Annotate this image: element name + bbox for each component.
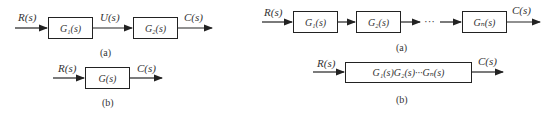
caption-a: (a) xyxy=(396,43,407,53)
input-label: R(s) xyxy=(264,7,282,18)
output-label: C(s) xyxy=(184,12,203,23)
caption-a: (a) xyxy=(100,48,111,58)
block-g: G(s) xyxy=(85,67,130,89)
caption-b: (b) xyxy=(396,95,408,105)
block-label: G₁(s) xyxy=(305,17,326,28)
block-label: G₂(s) xyxy=(145,23,166,34)
output-label: C(s) xyxy=(137,63,156,74)
block-label: Gₙ(s) xyxy=(474,17,496,28)
output-label: C(s) xyxy=(478,56,497,67)
block-label: G₁(s) xyxy=(60,23,81,34)
input-label: R(s) xyxy=(18,12,36,23)
input-label: R(s) xyxy=(317,58,335,69)
block-g2: G₂(s) xyxy=(133,17,178,39)
block-g1: G₁(s) xyxy=(293,11,338,33)
output-label: C(s) xyxy=(512,5,531,16)
block-label: G(s) xyxy=(99,73,117,84)
block-g1: G₁(s) xyxy=(48,17,93,39)
block-g2: G₂(s) xyxy=(356,11,401,33)
caption-b: (b) xyxy=(102,98,114,108)
block-label: G₁(s)G₂(s)···Gₙ(s) xyxy=(373,67,445,78)
ellipsis: ··· xyxy=(424,16,435,27)
block-gn: Gₙ(s) xyxy=(462,11,507,33)
intermediate-label: U(s) xyxy=(100,12,120,23)
input-label: R(s) xyxy=(58,63,76,74)
block-label: G₂(s) xyxy=(368,17,389,28)
block-product: G₁(s)G₂(s)···Gₙ(s) xyxy=(345,62,472,83)
